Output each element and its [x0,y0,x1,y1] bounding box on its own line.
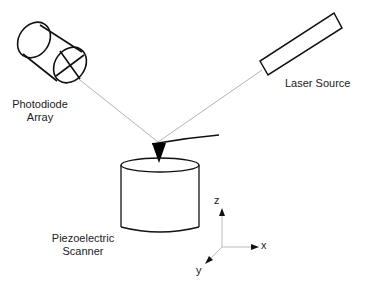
scanner-label: Piezoelectric Scanner [48,232,118,258]
coordinate-axes [210,214,252,259]
axis-y-label: y [196,264,202,277]
x-arrow-icon [251,244,259,250]
probe-tip [152,143,166,163]
photodiode-label: Photodiode Array [8,98,72,124]
laser-beam-incident [158,70,262,142]
axis-z-label: z [214,194,220,207]
axis-x-label: x [261,239,267,252]
photodiode-label-line1: Photodiode [8,98,72,111]
scanner-label-line2: Scanner [48,245,118,258]
piezoelectric-scanner-icon [121,158,199,232]
photodiode-array-icon [11,16,93,89]
laser-source-label: Laser Source [285,77,350,90]
photodiode-label-line2: Array [8,111,72,124]
laser-source-icon [260,13,342,75]
laser-beam-reflected [75,76,158,142]
z-arrow-icon [219,208,225,216]
scanner-label-line1: Piezoelectric [48,232,118,245]
